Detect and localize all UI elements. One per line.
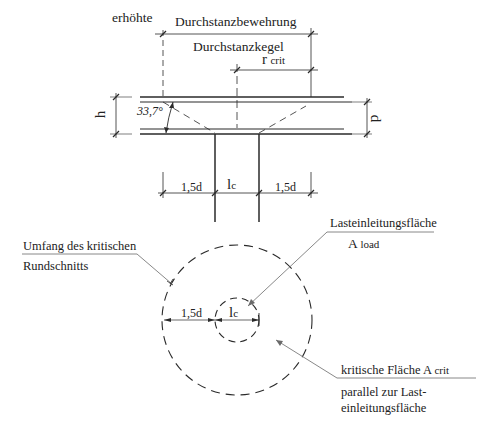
label-load-area: Lasteinleitungsfläche [330,217,437,230]
plan-dim-left-label: 1,5d [181,307,202,319]
dim-left-label: 1,5d [181,181,202,193]
label-rcrit: r crit [262,52,285,67]
label-d: d [368,115,383,123]
label-aload: A load [348,237,379,251]
label-increased: erhöhte [112,11,152,25]
label-perimeter-line1: Umfang des kritischen [23,240,136,253]
label-crit-area: kritische Fläche A crit [341,364,449,377]
label-h: h [93,111,108,119]
dim-right-label: 1,5d [275,181,296,193]
label-parallel-line1: parallel zur Last- [341,386,426,399]
label-reinforcement: Durchstanzbewehrung [175,15,296,29]
plan-dim-col-label: lc [229,305,238,320]
dim-col-label: lc [227,177,236,192]
label-parallel-line2: einleitungsfläche [341,402,426,415]
label-perimeter-line2: Rundschnitts [23,260,88,273]
label-angle: 33,7° [137,105,163,117]
